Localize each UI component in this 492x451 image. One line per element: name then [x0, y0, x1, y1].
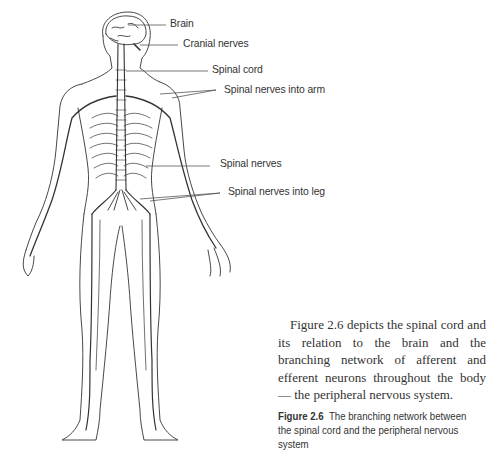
label-spinal-nerves: Spinal nerves — [220, 157, 282, 169]
figure-caption: Figure 2.6 The branching network between… — [278, 409, 473, 451]
label-spinal-cord: Spinal cord — [212, 63, 263, 75]
label-brain: Brain — [170, 17, 194, 29]
caption-number: Figure 2.6 — [278, 410, 324, 422]
label-cranial-nerves: Cranial nerves — [183, 37, 248, 49]
label-spinal-nerves-into-leg: Spinal nerves into leg — [228, 185, 325, 197]
label-spinal-nerves-into-arm: Spinal nerves into arm — [224, 83, 325, 95]
body-paragraph: Figure 2.6 depicts the spinal cord and i… — [278, 316, 486, 404]
